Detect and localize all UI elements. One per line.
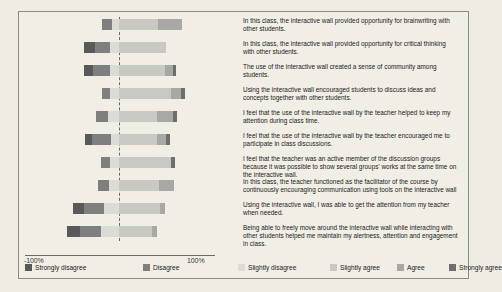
x-axis-tick-left: -100% xyxy=(24,257,44,264)
bar-segment[interactable] xyxy=(111,134,119,145)
bar-segment[interactable] xyxy=(109,180,119,191)
bar-segment[interactable] xyxy=(104,203,119,214)
bar-segment[interactable] xyxy=(159,180,175,191)
bar-segment[interactable] xyxy=(110,65,119,76)
bar-segment[interactable] xyxy=(152,226,157,237)
bar-segment[interactable] xyxy=(102,88,109,99)
statement-text: I feel that the use of the interactive w… xyxy=(243,132,459,148)
bar-segment[interactable] xyxy=(101,157,110,168)
bar-segment[interactable] xyxy=(171,88,181,99)
stacked-bar[interactable] xyxy=(73,203,165,214)
legend-swatch xyxy=(25,264,32,271)
legend-label: Strongly disagree xyxy=(35,264,86,271)
legend-item[interactable]: Strongly agree xyxy=(449,264,502,271)
bar-segment[interactable] xyxy=(119,65,165,76)
bar-segment[interactable] xyxy=(119,88,171,99)
statement-text: I feel that the teacher was an active me… xyxy=(243,155,459,180)
stacked-bar[interactable] xyxy=(102,88,185,99)
bar-segment[interactable] xyxy=(166,134,170,145)
legend-label: Slightly disagree xyxy=(248,264,296,271)
bar-segment[interactable] xyxy=(95,42,110,53)
bar-segment[interactable] xyxy=(160,203,165,214)
bar-row xyxy=(19,19,234,30)
bar-segment[interactable] xyxy=(93,65,110,76)
bar-segment[interactable] xyxy=(119,42,166,53)
statement-text: In this class, the teacher functioned as… xyxy=(243,178,459,194)
bar-row xyxy=(19,111,234,122)
bar-segment[interactable] xyxy=(110,42,119,53)
legend-swatch xyxy=(238,264,245,271)
bar-row xyxy=(19,42,234,53)
chart-figure: -100% 100% In this class, the interactiv… xyxy=(18,11,469,279)
bar-segment[interactable] xyxy=(119,157,171,168)
statement-list: In this class, the interactive wall prov… xyxy=(243,16,465,250)
bar-segment[interactable] xyxy=(119,134,157,145)
legend-label: Disagree xyxy=(153,264,179,271)
bar-segment[interactable] xyxy=(119,19,158,30)
bar-segment[interactable] xyxy=(157,134,166,145)
stacked-bar[interactable] xyxy=(85,134,170,145)
statement-text: The use of the interactive wall created … xyxy=(243,63,459,79)
bar-segment[interactable] xyxy=(119,203,160,214)
bar-segment[interactable] xyxy=(119,180,159,191)
statement-text: In this class, the interactive wall prov… xyxy=(243,17,459,33)
x-axis-line xyxy=(25,255,215,256)
legend-item[interactable]: Agree xyxy=(397,264,425,271)
bar-segment[interactable] xyxy=(173,65,176,76)
bar-segment[interactable] xyxy=(92,134,110,145)
bar-segment[interactable] xyxy=(171,157,175,168)
plot-area xyxy=(19,15,234,249)
legend-label: Slightly agree xyxy=(340,264,380,271)
stacked-bar[interactable] xyxy=(84,42,166,53)
statement-text: I feel that the use of the interactive w… xyxy=(243,109,459,125)
bar-segment[interactable] xyxy=(98,180,109,191)
stacked-bar[interactable] xyxy=(84,65,176,76)
legend-item[interactable]: Slightly disagree xyxy=(238,264,296,271)
bar-segment[interactable] xyxy=(165,65,173,76)
bar-segment[interactable] xyxy=(102,19,111,30)
stacked-bar[interactable] xyxy=(98,180,174,191)
stacked-bar[interactable] xyxy=(67,226,156,237)
bar-segment[interactable] xyxy=(108,111,119,122)
bar-segment[interactable] xyxy=(112,19,119,30)
bar-row xyxy=(19,65,234,76)
bar-segment[interactable] xyxy=(101,226,119,237)
bar-segment[interactable] xyxy=(85,134,92,145)
bar-segment[interactable] xyxy=(173,111,177,122)
legend-swatch xyxy=(449,264,456,271)
legend-item[interactable]: Slightly agree xyxy=(330,264,380,271)
bar-row xyxy=(19,226,234,237)
chart-legend: Strongly disagreeDisagreeSlightly disagr… xyxy=(25,264,465,276)
bar-row xyxy=(19,134,234,145)
bar-segment[interactable] xyxy=(119,111,157,122)
stacked-bar[interactable] xyxy=(96,111,177,122)
bar-row xyxy=(19,180,234,191)
statement-text: Using the interactive wall, I was able t… xyxy=(243,201,459,217)
legend-swatch xyxy=(143,264,150,271)
statement-text: Being able to freely move around the int… xyxy=(243,224,459,249)
bar-segment[interactable] xyxy=(157,111,174,122)
bar-segment[interactable] xyxy=(67,226,80,237)
bar-segment[interactable] xyxy=(158,19,182,30)
legend-item[interactable]: Disagree xyxy=(143,264,179,271)
bar-segment[interactable] xyxy=(84,65,93,76)
bar-segment[interactable] xyxy=(80,226,100,237)
legend-item[interactable]: Strongly disagree xyxy=(25,264,86,271)
stacked-bar[interactable] xyxy=(102,19,181,30)
x-axis-tick-right: 100% xyxy=(187,257,205,264)
bar-segment[interactable] xyxy=(110,157,119,168)
legend-swatch xyxy=(330,264,337,271)
bar-segment[interactable] xyxy=(73,203,84,214)
bar-segment[interactable] xyxy=(181,88,186,99)
legend-label: Strongly agree xyxy=(459,264,502,271)
legend-swatch xyxy=(397,264,404,271)
bar-segment[interactable] xyxy=(96,111,108,122)
statement-text: In this class, the interactive wall prov… xyxy=(243,40,459,56)
bar-segment[interactable] xyxy=(119,226,152,237)
bar-row xyxy=(19,157,234,168)
bar-segment[interactable] xyxy=(84,203,104,214)
legend-label: Agree xyxy=(407,264,425,271)
bar-segment[interactable] xyxy=(84,42,95,53)
stacked-bar[interactable] xyxy=(101,157,175,168)
bar-segment[interactable] xyxy=(110,88,119,99)
